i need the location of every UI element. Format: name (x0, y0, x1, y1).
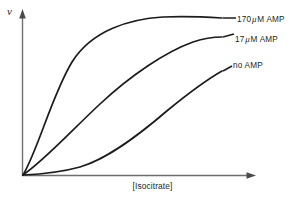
curve-no-amp (23, 71, 222, 175)
curve-label-17-um-amp: 17μM AMP (235, 35, 278, 44)
x-axis-label: [Isocitrate] (0, 181, 305, 191)
curve-label-17-value: 17 (235, 35, 245, 44)
curve-17-um-amp (23, 37, 222, 175)
curve-label-170-unit: M AMP (257, 15, 284, 24)
curve-label-170-value: 170 (237, 15, 251, 24)
leader-line-17 (223, 34, 234, 37)
curve-label-17-unit: M AMP (251, 35, 278, 44)
y-axis-arrowhead (19, 9, 26, 19)
kinetics-figure: v [Isocitrate] 170μM AMP 17μM AMP no AMP (0, 0, 305, 201)
plot-area (0, 0, 305, 201)
curve-label-no-amp-text: no AMP (233, 61, 263, 70)
curve-170-um-amp (23, 17, 222, 175)
curve-label-no-amp: no AMP (233, 62, 263, 70)
x-axis-arrowhead (247, 172, 257, 179)
y-axis-label: v (7, 6, 12, 17)
leader-line-no-amp (223, 66, 232, 71)
curve-label-170-um-amp: 170μM AMP (237, 15, 285, 24)
